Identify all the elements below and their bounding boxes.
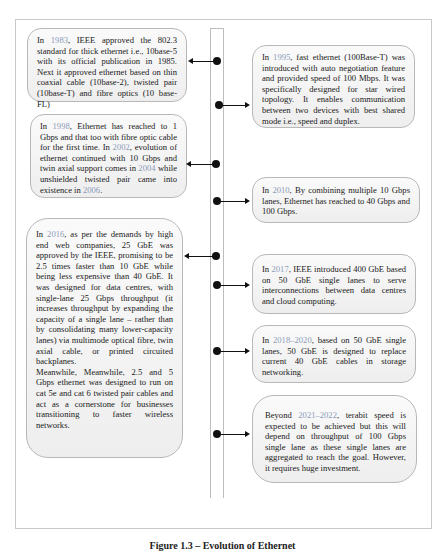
year-label: 2017 — [271, 264, 288, 274]
year-label: 2002 — [113, 142, 130, 152]
timeline-box-1998: In 1998, Ethernet has reached to 1 Gbps … — [30, 114, 187, 198]
timeline-arrow-shaft — [210, 28, 224, 498]
year-label: 1998 — [53, 121, 70, 131]
timeline-box-2010: In 2010, By combining multiple 10 Gbps l… — [252, 177, 420, 223]
year-label: 2006 — [83, 185, 100, 195]
year-label: 2018–2020 — [273, 335, 312, 345]
entry-2016-extra: Meanwhile, Meanwhile, 2.5 and 5 Gbps eth… — [36, 367, 173, 431]
timeline-box-2017: In 2017, IEEE introduced 400 GbE based o… — [252, 254, 416, 314]
year-label: 2021–2022 — [298, 410, 337, 420]
arrow-right-icon — [221, 105, 246, 107]
year-label: 2016 — [47, 229, 64, 239]
timeline-dot-1983 — [213, 57, 221, 65]
timeline-box-1995: In 1995, fast ethernet (100Base-T) was i… — [252, 45, 415, 128]
timeline-box-2021-2022: Beyond 2021–2022, terabit speed is expec… — [252, 395, 417, 483]
arrow-right-icon — [220, 285, 246, 287]
arrow-right-icon — [220, 351, 246, 353]
timeline-box-2018-2020: In 2018–2020, based on 50 GbE single lan… — [252, 325, 416, 383]
year-label: 1995 — [273, 52, 290, 62]
entry-2016-main: In 2016, as per the demands by high end … — [36, 229, 173, 367]
year-label: 2010 — [272, 185, 289, 195]
arrow-right-icon — [220, 434, 246, 436]
timeline-box-2016: In 2016, as per the demands by high end … — [26, 218, 183, 458]
timeline-box-1983: In 1983, IEEE approved the 802.3 standar… — [27, 28, 187, 102]
year-label: 1983 — [51, 35, 68, 45]
arrow-left-icon — [190, 164, 214, 166]
arrow-right-icon — [220, 201, 246, 203]
figure-caption: Figure 1.3 – Evolution of Ethernet — [0, 540, 445, 551]
arrow-left-icon — [188, 256, 214, 258]
year-label: 2004 — [138, 163, 155, 173]
arrow-left-icon — [192, 61, 214, 63]
